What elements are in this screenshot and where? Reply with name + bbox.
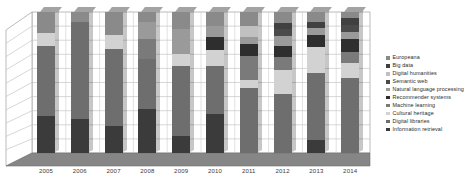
bar-segment (105, 12, 123, 35)
x-axis-label-2006: 2006 (67, 168, 93, 174)
legend-item[interactable]: Digital humanities (386, 70, 472, 78)
bar-stack (206, 12, 224, 153)
bar-2005 (37, 12, 55, 153)
bar-side-face (190, 9, 194, 152)
bar-segment (71, 119, 89, 153)
x-axis-label-2007: 2007 (101, 168, 127, 174)
legend-item[interactable]: Digital libraries (386, 118, 472, 126)
bar-side-face (325, 9, 329, 152)
bar-2012 (274, 12, 292, 153)
bar-stack (105, 12, 123, 153)
bar-segment (172, 66, 190, 137)
bar-side-face (123, 9, 127, 152)
legend-item[interactable]: Machine learning (386, 102, 472, 110)
x-axis-label-2010: 2010 (202, 168, 228, 174)
legend-swatch-icon (386, 112, 390, 116)
legend-item[interactable]: Natural language processing (386, 86, 472, 94)
x-axis-label-2011: 2011 (236, 168, 262, 174)
bar-top-cap (141, 7, 163, 12)
legend-item-label: Cultural heritage (393, 110, 434, 118)
bar-segment (307, 12, 325, 22)
bar-segment (138, 59, 156, 110)
bar-side-face (156, 9, 160, 152)
bar-segment (341, 78, 359, 153)
bar-segment (138, 12, 156, 22)
legend-swatch-icon (386, 104, 390, 108)
bar-segment (37, 33, 55, 46)
legend-item[interactable]: Information retrieval (386, 126, 472, 134)
bar-segment (37, 12, 55, 33)
bar-side-face (55, 9, 59, 152)
bar-top-cap (108, 7, 130, 12)
bar-segment (172, 54, 190, 65)
bar-segment (274, 94, 292, 153)
legend-item[interactable]: Cultural heritage (386, 110, 472, 118)
legend-item-label: Semantic web (393, 78, 428, 86)
bar-top-cap (74, 7, 96, 12)
bar-segment (341, 18, 359, 25)
bar-segment (240, 80, 258, 88)
legend-item-label: Europeana (393, 54, 420, 62)
bar-segment (274, 36, 292, 46)
bar-2007 (105, 12, 123, 153)
bar-segment (37, 116, 55, 153)
legend-item-label: Recommender systems (393, 94, 452, 102)
x-axis-label-2014: 2014 (337, 168, 363, 174)
bar-segment (274, 70, 292, 94)
legend-swatch-icon (386, 56, 390, 60)
bar-segment (307, 35, 325, 48)
bar-segment (240, 12, 258, 26)
bar-segment (307, 28, 325, 35)
bar-segment (307, 73, 325, 141)
legend-item-label: Big data (393, 62, 414, 70)
bar-side-face (89, 9, 93, 152)
bar-segment (105, 49, 123, 127)
bar-2014 (341, 12, 359, 153)
bar-top-cap (277, 7, 299, 12)
bar-segment (206, 37, 224, 50)
bar-segment (71, 12, 89, 22)
bar-segment (105, 35, 123, 49)
bar-segment (341, 32, 359, 39)
bar-segment (206, 50, 224, 66)
legend-swatch-icon (386, 120, 390, 124)
legend-item[interactable]: Europeana (386, 54, 472, 62)
bar-stack (341, 12, 359, 153)
bar-stack (274, 12, 292, 153)
bar-top-cap (243, 7, 265, 12)
bar-segment (138, 109, 156, 153)
bar-2013 (307, 12, 325, 153)
bar-segment (206, 12, 224, 26)
bar-segment (172, 29, 190, 54)
bar-segment (240, 56, 258, 80)
bar-segment (138, 22, 156, 39)
legend-item[interactable]: Recommender systems (386, 94, 472, 102)
bar-segment (307, 140, 325, 153)
legend-item[interactable]: Big data (386, 62, 472, 70)
legend-swatch-icon (386, 128, 390, 132)
bar-segment (206, 66, 224, 114)
chart-legend: EuropeanaBig dataDigital humanitiesSeman… (386, 54, 472, 134)
legend-item-label: Digital libraries (393, 118, 430, 126)
bar-segment (172, 12, 190, 29)
bar-stack (240, 12, 258, 153)
bar-2011 (240, 12, 258, 153)
bar-segment (341, 25, 359, 32)
bar-segment (274, 57, 292, 70)
legend-item-label: Information retrieval (393, 126, 443, 134)
bar-segment (240, 26, 258, 37)
bar-2009 (172, 12, 190, 153)
bar-segment (341, 39, 359, 52)
bar-segment (274, 29, 292, 36)
bar-stack (307, 12, 325, 153)
bar-stack (172, 12, 190, 153)
plot-area (0, 0, 382, 170)
legend-item[interactable]: Semantic web (386, 78, 472, 86)
bar-segment (240, 88, 258, 153)
bar-2008 (138, 12, 156, 153)
bar-segment (206, 114, 224, 153)
bar-top-cap (310, 7, 332, 12)
bar-segment (341, 63, 359, 79)
bar-side-face (359, 9, 363, 152)
bar-segment (71, 22, 89, 119)
